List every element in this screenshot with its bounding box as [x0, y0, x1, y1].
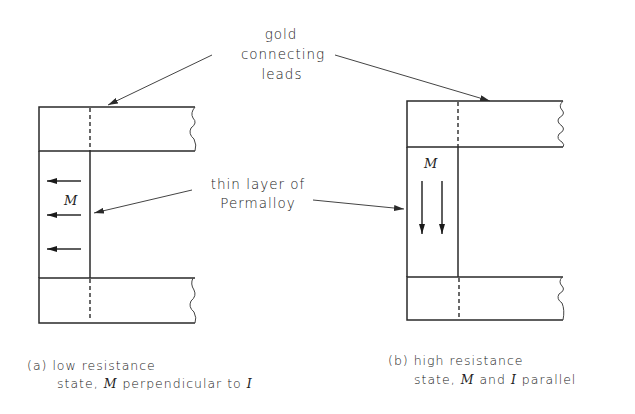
permalloy-label-line1: thin layer of — [211, 178, 306, 192]
caption-a-i-symbol: I — [247, 376, 253, 391]
gold-leads-label-line1: gold — [265, 28, 298, 42]
bottom-gold-lead-b — [407, 277, 564, 320]
caption-b-m-symbol: M — [461, 372, 475, 387]
gold-leads-leader-a — [108, 55, 212, 105]
diagram-drawing — [0, 0, 635, 414]
caption-b-line2: state, M and I parallel — [414, 374, 576, 387]
permalloy-label-line2: Permalloy — [220, 197, 295, 211]
bottom-gold-lead-a — [39, 278, 196, 323]
caption-a-m-symbol: M — [104, 376, 118, 391]
caption-b-text: parallel — [517, 372, 576, 387]
magnetization-arrows-a — [47, 181, 81, 249]
top-gold-lead-b — [407, 101, 564, 147]
gold-leads-label-line3: leads — [262, 68, 303, 82]
caption-b-text: and — [474, 372, 510, 387]
permalloy-leader-a — [94, 190, 192, 213]
caption-a-text: perpendicular to — [117, 376, 246, 391]
caption-a-line2: state, M perpendicular to I — [57, 378, 253, 391]
magnetization-arrows-b — [422, 181, 442, 234]
magnetoresistance-diagram: gold connecting leads thin layer of Perm… — [0, 0, 635, 414]
caption-b-text: state, — [414, 372, 461, 387]
gold-leads-label-line2: connecting — [241, 48, 325, 62]
permalloy-leader-b — [313, 200, 404, 209]
magnetization-label-b: M — [424, 157, 438, 170]
caption-a-line1: (a) low resistance — [27, 360, 156, 373]
panel-a — [39, 55, 212, 323]
caption-a-text: state, — [57, 376, 104, 391]
gold-leads-leader-b — [335, 55, 490, 101]
panel-b — [313, 55, 564, 320]
top-gold-lead-a — [39, 107, 196, 151]
magnetization-label-a: M — [64, 194, 78, 207]
caption-b-line1: (b) high resistance — [388, 355, 524, 368]
